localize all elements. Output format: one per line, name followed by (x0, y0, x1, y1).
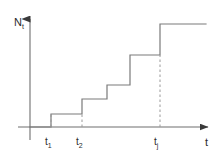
tick-label-t2-sub: 2 (79, 142, 83, 149)
y-axis-label: Nt (14, 16, 24, 30)
x-axis-label: t (205, 136, 208, 148)
x-axis-label-main: t (205, 136, 208, 148)
step-function-figure: Nt t t1 t2 tj (0, 0, 221, 160)
tick-label-t2: t2 (76, 136, 83, 149)
y-axis-label-sub: t (22, 23, 24, 30)
tick-label-t1-sub: 1 (48, 142, 52, 149)
tick-label-tj: tj (154, 136, 159, 150)
y-axis-label-main: N (14, 16, 22, 28)
tick-label-t1: t1 (45, 136, 52, 149)
plot-canvas: Nt t t1 t2 tj (0, 0, 221, 160)
step-function-curve (30, 24, 206, 127)
tick-label-tj-sub: j (156, 142, 159, 150)
